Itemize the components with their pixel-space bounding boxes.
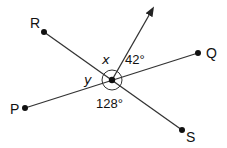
label-s: S — [186, 129, 195, 145]
point-center — [109, 77, 115, 83]
angle-42-label: 42° — [125, 52, 145, 67]
angle-y-label: y — [83, 72, 92, 87]
angle-128-label: 128° — [96, 96, 123, 111]
point-s — [179, 127, 185, 133]
angle-x-label: x — [101, 52, 110, 67]
label-q: Q — [206, 45, 217, 61]
geometry-diagram: R Q P S x y 42° 128° — [0, 0, 227, 148]
label-p: P — [10, 101, 19, 117]
point-p — [22, 105, 28, 111]
point-q — [195, 50, 201, 56]
point-r — [41, 29, 47, 35]
label-r: R — [30, 15, 40, 31]
